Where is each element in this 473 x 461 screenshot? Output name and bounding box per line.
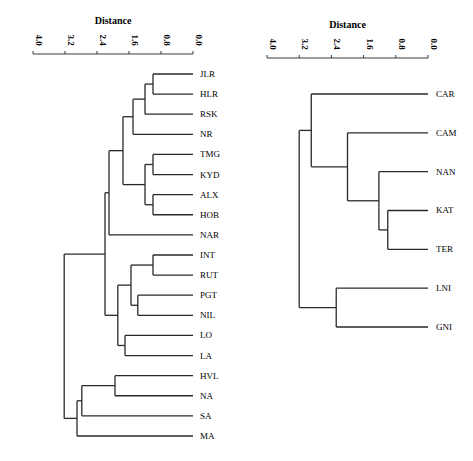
tick-label: 0.0 [194,34,204,46]
tick-label: 4.0 [268,38,278,50]
leaf-label-gni: GNI [436,322,452,332]
leaf-label-tmg: TMG [200,149,221,159]
tick-label: 3.2 [66,34,76,46]
leaf-label-rsk: RSK [200,109,218,119]
leaf-label-rut: RUT [200,270,219,280]
dendrogram-figure: Distance4.03.22.41.60.80.0JLRHLRRSKNRTMG… [0,0,473,461]
leaf-label-jlr: JLR [200,69,215,79]
leaf-label-na: NA [200,391,213,401]
leaf-label-lni: LNI [436,283,451,293]
axis-title: Distance [329,19,366,30]
leaf-label-kyd: KYD [200,170,220,180]
tick-label: 2.4 [98,34,108,46]
leaf-label-lo: LO [200,330,212,340]
dendrogram-right: Distance4.03.22.41.60.80.0CARCAMNANKATTE… [267,19,457,332]
leaf-label-kat: KAT [436,205,454,215]
leaf-label-hob: HOB [200,210,219,220]
leaf-label-pgt: PGT [200,290,218,300]
leaf-label-nr: NR [200,129,213,139]
leaf-label-nan: NAN [436,167,456,177]
tick-label: 3.2 [300,38,310,50]
tick-label: 1.6 [365,38,375,50]
dendrogram-left: Distance4.03.22.41.60.80.0JLRHLRRSKNRTMG… [33,15,221,441]
leaf-label-alx: ALX [200,190,219,200]
leaf-label-ter: TER [436,244,453,254]
tick-label: 0.0 [429,38,439,50]
leaf-label-hvl: HVL [200,371,219,381]
tick-label: 0.8 [162,34,172,46]
leaf-label-car: CAR [436,89,455,99]
leaf-label-nil: NIL [200,310,215,320]
leaf-label-sa: SA [200,411,212,421]
leaf-label-hlr: HLR [200,89,218,99]
leaf-label-ma: MA [200,431,215,441]
leaf-label-int: INT [200,250,215,260]
axis-title: Distance [95,15,132,26]
leaf-label-cam: CAM [436,128,457,138]
leaf-label-la: LA [200,351,212,361]
tick-label: 4.0 [34,34,44,46]
tick-label: 2.4 [332,38,342,50]
leaf-label-nar: NAR [200,230,219,240]
tick-label: 0.8 [397,38,407,50]
tick-label: 1.6 [130,34,140,46]
